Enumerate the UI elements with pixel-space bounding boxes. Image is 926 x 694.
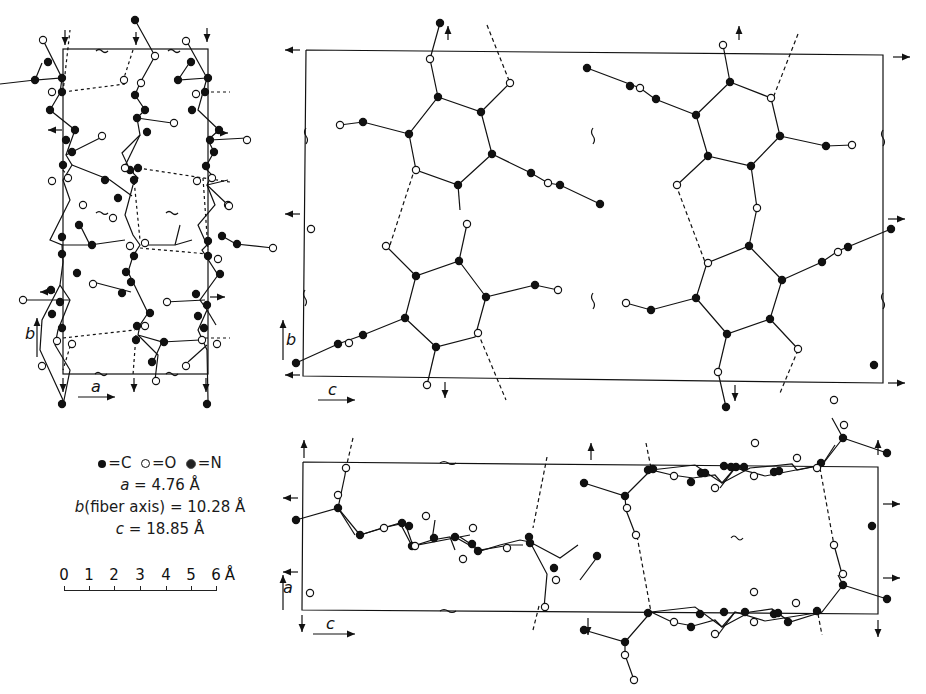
cell-param-b: b(fiber axis) = 10.28 Å xyxy=(60,496,260,518)
atom-key: =C =O =N xyxy=(60,452,260,474)
ac-atoms xyxy=(292,396,890,683)
scale-tick-mark xyxy=(216,586,217,591)
axis-label-b-panel2: b xyxy=(286,330,296,349)
cell-param-a: a = 4.76 Å xyxy=(60,474,260,496)
scale-tick-mark xyxy=(89,586,90,591)
carbon-label: =C xyxy=(108,454,131,472)
scale-tick-mark xyxy=(140,586,141,591)
scale-tick-4: 4 xyxy=(161,566,171,584)
ac-projection-panel xyxy=(283,418,900,680)
a-value: = 4.76 Å xyxy=(134,476,200,494)
scale-tick-0: 0 xyxy=(59,566,69,584)
axis-label-a-panel1: a xyxy=(91,377,101,396)
bc-atoms xyxy=(292,19,894,410)
axis-label-b-panel1: b xyxy=(25,324,35,343)
c-symbol: c xyxy=(116,520,124,538)
scale-tick-2: 2 xyxy=(109,566,119,584)
axis-label-c-panel3: c xyxy=(326,614,335,633)
a-symbol: a xyxy=(120,476,129,494)
axis-label-c-panel2: c xyxy=(328,380,337,399)
cell-param-c: c = 18.85 Å xyxy=(60,518,260,540)
axis-label-a-panel3: a xyxy=(283,578,293,597)
scale-bar: 0 1 2 3 4 5 6 Å xyxy=(58,566,228,606)
nitrogen-dot-icon xyxy=(186,459,196,469)
ab-projection-panel xyxy=(0,0,273,405)
scale-tick-mark xyxy=(191,586,192,591)
b-symbol: b xyxy=(75,498,85,516)
c-value: = 18.85 Å xyxy=(129,520,204,538)
oxygen-circle-icon xyxy=(141,459,150,468)
scale-tick-6: 6 xyxy=(211,566,221,584)
legend: =C =O =N a = 4.76 Å b(fiber axis) = 10.2… xyxy=(60,452,260,540)
scale-tick-mark xyxy=(166,586,167,591)
oxygen-label: =O xyxy=(152,454,176,472)
scale-tick-3: 3 xyxy=(135,566,145,584)
scale-unit: Å xyxy=(225,566,235,584)
scale-tick-mark xyxy=(64,586,65,591)
scale-tick-mark xyxy=(114,586,115,591)
bc-projection-panel xyxy=(283,23,910,407)
b-value: (fiber axis) = 10.28 Å xyxy=(84,498,245,516)
scale-tick-1: 1 xyxy=(84,566,94,584)
carbon-dot-icon xyxy=(98,460,106,468)
scale-tick-5: 5 xyxy=(186,566,196,584)
nitrogen-label: =N xyxy=(198,454,222,472)
